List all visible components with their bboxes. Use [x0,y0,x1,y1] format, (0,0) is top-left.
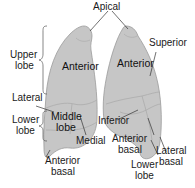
label-lateral-basal-line2: basal [159,157,183,167]
upper-lobe-brace [39,26,47,94]
label-lower-lobe-left-line2: lobe [16,126,35,136]
label-upper-lobe-line1: Upper [10,50,37,60]
label-anterior-right-lung: Anterior [62,61,99,71]
label-upper-lobe-line2: lobe [15,61,34,71]
label-lower-lobe-left-line1: Lower [12,115,39,125]
label-anterior-basal-left-line2: basal [51,167,75,177]
label-lower-lobe-right-line1: Lower [131,160,158,170]
label-anterior-basal-right-line2: basal [118,145,142,155]
label-superior: Superior [149,38,187,48]
label-middle-lobe-line1: Middle [51,111,82,121]
label-middle-lobe-line2: lobe [56,122,76,132]
label-anterior-left-lung: Anterior [117,58,154,68]
label-lateral-basal-line1: Lateral [156,146,187,156]
label-inferior: Inferior [98,116,129,126]
label-anterior-basal-left-line1: Anterior [45,156,80,166]
label-apical: Apical [93,2,120,12]
label-lateral: Lateral [12,93,43,103]
label-lower-lobe-right-line2: lobe [135,171,154,181]
lung-diagram: Apical Upper lobe Lateral Lower lobe Ant… [0,0,195,188]
apical-leader-right-lung [90,11,108,31]
label-anterior-basal-right-line1: Anterior [112,134,147,144]
apical-leader-left-lung [112,11,128,29]
label-medial: Medial [76,136,105,146]
